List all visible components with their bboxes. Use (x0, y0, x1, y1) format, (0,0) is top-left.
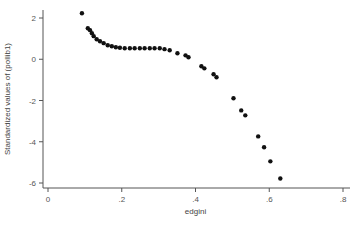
data-point (262, 145, 266, 149)
x-tick-label: .2 (118, 195, 125, 204)
x-tick-label: .8 (340, 195, 347, 204)
data-point (152, 46, 156, 50)
scatter-chart: -6-4-202 0.2.4.6.8 edgini Standardized v… (0, 0, 362, 231)
y-ticks: -6-4-202 (29, 14, 43, 188)
data-point (214, 75, 218, 79)
data-point (132, 46, 136, 50)
data-point (162, 47, 166, 51)
data-points (80, 11, 283, 181)
data-point (114, 45, 118, 49)
x-axis-title: edgini (185, 207, 207, 216)
x-tick-label: .6 (266, 195, 273, 204)
data-point (101, 41, 105, 45)
y-tick-label: 0 (32, 55, 37, 64)
data-point (278, 176, 282, 180)
x-tick-label: .4 (192, 195, 199, 204)
y-tick-label: -2 (29, 97, 37, 106)
data-point (148, 46, 152, 50)
data-point (158, 46, 162, 50)
data-point (243, 113, 247, 117)
x-ticks: 0.2.4.6.8 (46, 188, 347, 204)
data-point (167, 48, 171, 52)
data-point (106, 43, 110, 47)
data-point (110, 44, 114, 48)
y-tick-label: -4 (29, 138, 37, 147)
data-point (80, 11, 84, 15)
data-point (128, 46, 132, 50)
data-point (138, 46, 142, 50)
data-point (268, 159, 272, 163)
data-point (186, 55, 190, 59)
y-axis-title: Standardized values of (pollib1) (3, 43, 12, 155)
data-point (256, 134, 260, 138)
data-point (123, 46, 127, 50)
data-point (239, 108, 243, 112)
data-point (175, 51, 179, 55)
data-point (118, 46, 122, 50)
x-tick-label: 0 (46, 195, 51, 204)
data-point (142, 46, 146, 50)
y-tick-label: 2 (32, 14, 37, 23)
data-point (231, 96, 235, 100)
y-tick-label: -6 (29, 179, 37, 188)
data-point (202, 66, 206, 70)
